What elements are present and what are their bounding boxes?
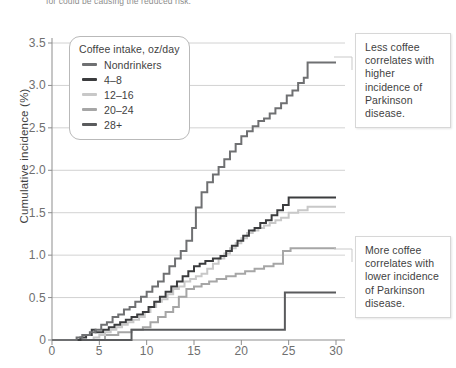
legend-item-nondrinkers[interactable]: Nondrinkers: [78, 57, 181, 72]
legend-item-20-24[interactable]: 20–24: [78, 102, 181, 117]
legend-item-label: 4–8: [104, 74, 122, 86]
legend-item-label: 28+: [104, 119, 122, 131]
annotation-callout-top: Less coffee correlates with higher incid…: [355, 33, 451, 128]
legend-swatch-icon: [82, 123, 97, 126]
series-line: [52, 197, 336, 340]
legend-item-label: 20–24: [104, 104, 134, 116]
legend-item-4-8[interactable]: 4–8: [78, 72, 181, 87]
annotation-leader-lines: [334, 57, 352, 262]
legend-swatch-icon: [82, 78, 97, 81]
chart-legend: Coffee intake, oz/day Nondrinkers 4–8 12…: [69, 36, 190, 140]
legend-item-label: Nondrinkers: [104, 59, 162, 71]
legend-swatch-icon: [82, 63, 97, 66]
legend-swatch-icon: [82, 93, 97, 96]
annotation-callout-bottom: More coffee correlates with lower incide…: [355, 236, 451, 318]
legend-item-12-16[interactable]: 12–16: [78, 87, 181, 102]
series-line: [52, 207, 336, 340]
legend-item-28plus[interactable]: 28+: [78, 117, 181, 132]
legend-swatch-icon: [82, 108, 97, 111]
series-line: [52, 248, 336, 340]
legend-title: Coffee intake, oz/day: [79, 43, 181, 55]
legend-item-label: 12–16: [104, 89, 134, 101]
figure-root: for could be causing the reduced risk. C…: [0, 0, 456, 368]
